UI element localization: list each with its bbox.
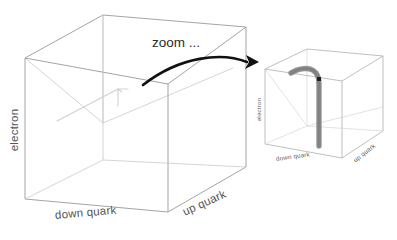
left-cube-top-face (25, 15, 246, 84)
left-cube-axis-label-electron: electron (8, 95, 20, 165)
interaction-vertex-dot (317, 77, 321, 81)
zoomed-electron-track (291, 69, 321, 146)
zoom-arrow-group (143, 55, 259, 85)
zoomed-track-path (291, 69, 319, 146)
right-cube-back-left-diagonal (265, 69, 307, 126)
coarse-track-path (57, 89, 122, 121)
physics-zoom-diagram: electron down quark up quark zoom ... el… (0, 0, 397, 240)
right-cube-axis-label-electron: electron (255, 90, 262, 130)
right-cube-bottom-face-back (265, 126, 383, 144)
zoom-arrow-curve (143, 57, 247, 85)
zoomed-track-core (291, 69, 319, 146)
left-cube-wireframe (25, 15, 246, 212)
left-cube-back-left-diagonal (25, 58, 103, 123)
right-cube-wireframe (265, 49, 383, 158)
zoom-annotation-label: zoom ... (152, 35, 200, 50)
right-cube-top-face (265, 49, 383, 81)
